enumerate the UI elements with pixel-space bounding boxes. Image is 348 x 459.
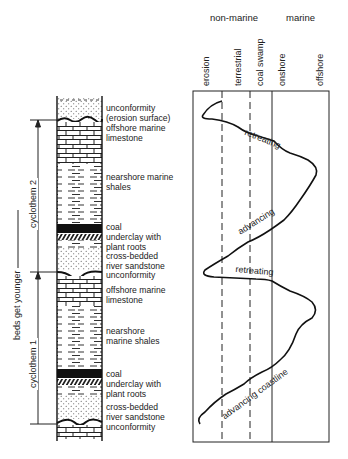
column-header-erosion: erosion xyxy=(201,56,211,86)
label-underclay-1: underclay with xyxy=(106,379,161,389)
label-cross-bedded-2: cross-bedded xyxy=(106,251,158,261)
label-plant-roots-1: plant roots xyxy=(106,389,146,399)
header-non-marine: non-marine xyxy=(210,12,258,23)
label-underclay-2: underclay with xyxy=(106,232,161,242)
label-offshore-marine-2: offshore marine xyxy=(106,123,166,133)
column-layers xyxy=(57,96,102,441)
label-coal-1: coal xyxy=(106,369,122,379)
label-marine-shales-1: marine shales xyxy=(106,336,160,346)
label-river-sandstone-1: river sandstone xyxy=(106,412,165,422)
cyclothem-1-label: cyclothem 1 xyxy=(28,338,38,390)
label-shales-2: shales xyxy=(106,182,131,192)
label-cross-bedded-1: cross-bedded xyxy=(106,402,158,412)
label-coal-2: coal xyxy=(106,222,122,232)
label-offshore-marine-1: offshore marine xyxy=(106,285,166,295)
stratigraphic-column xyxy=(0,0,348,459)
column-header-coal-swamp: coal swamp xyxy=(255,38,265,86)
column-header-offshore: offshore xyxy=(315,54,325,86)
column-header-onshore: onshore xyxy=(277,53,287,86)
beds-get-younger-label: beds get younger xyxy=(12,268,22,342)
column-header-terrestrial: terrestrial xyxy=(233,48,243,86)
label-limestone-1: limestone xyxy=(106,295,143,305)
label-unconformity-top: unconformity xyxy=(106,103,155,113)
label-nearshore-1: nearshore xyxy=(106,326,145,336)
label-erosion-surface: (erosion surface) xyxy=(106,113,170,123)
cyclothem-2-label: cyclothem 2 xyxy=(28,178,38,230)
header-marine: marine xyxy=(286,12,315,23)
label-unconformity-bottom: unconformity xyxy=(106,422,155,432)
label-nearshore-marine-2: nearshore marine xyxy=(106,172,173,182)
label-limestone-2: limestone xyxy=(106,133,143,143)
sea-level-curve xyxy=(199,101,317,424)
label-unconformity-mid: unconformity xyxy=(106,270,155,280)
